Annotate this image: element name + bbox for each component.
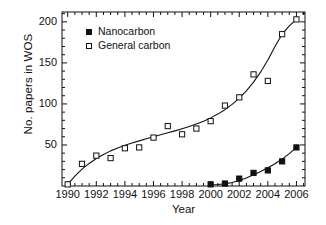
data-point [122, 146, 127, 151]
data-point [251, 170, 256, 175]
plot-area [0, 0, 326, 225]
data-point [237, 95, 242, 100]
data-point [237, 176, 242, 181]
axes-frame [62, 12, 305, 186]
data-point [165, 123, 170, 128]
data-point [280, 32, 285, 37]
data-point [94, 153, 99, 158]
data-point [108, 155, 113, 160]
data-point [251, 72, 256, 77]
data-point [294, 145, 299, 150]
data-point [222, 181, 227, 186]
data-point [65, 182, 70, 187]
data-point [151, 135, 156, 140]
data-point [137, 145, 142, 150]
fit-curves [68, 19, 297, 184]
data-point [265, 168, 270, 173]
data-point [208, 119, 213, 124]
chart-figure: No. papers in WOS Year 50100150200 19901… [0, 0, 326, 225]
data-point [222, 103, 227, 108]
data-point [265, 78, 270, 83]
data-markers [65, 17, 299, 187]
axis-ticks [62, 12, 305, 186]
data-point [79, 161, 84, 166]
data-point [208, 182, 213, 187]
data-point [280, 159, 285, 164]
data-point [179, 132, 184, 137]
data-point [194, 126, 199, 131]
data-point [294, 17, 299, 22]
